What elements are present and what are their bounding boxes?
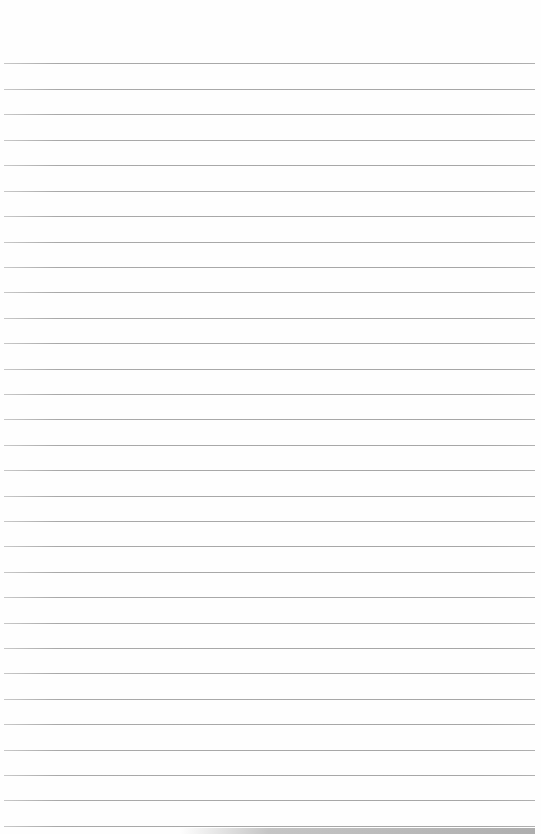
ruled-line — [4, 597, 535, 598]
ruled-line — [4, 89, 535, 90]
ruled-line — [4, 546, 535, 547]
ruled-line — [4, 470, 535, 471]
ruled-line — [4, 216, 535, 217]
page-edge-shadow — [180, 828, 535, 834]
ruled-line — [4, 140, 535, 141]
ruled-line — [4, 623, 535, 624]
ruled-line — [4, 699, 535, 700]
ruled-line — [4, 521, 535, 522]
ruled-line — [4, 242, 535, 243]
ruled-line — [4, 775, 535, 776]
ruled-line — [4, 648, 535, 649]
ruled-line — [4, 419, 535, 420]
ruled-line — [4, 826, 535, 827]
ruled-line — [4, 496, 535, 497]
ruled-line — [4, 343, 535, 344]
ruled-line — [4, 191, 535, 192]
ruled-line — [4, 394, 535, 395]
lined-paper-sheet — [0, 0, 541, 834]
ruled-line — [4, 267, 535, 268]
ruled-line — [4, 318, 535, 319]
ruled-line — [4, 572, 535, 573]
ruled-line — [4, 292, 535, 293]
ruled-line — [4, 800, 535, 801]
ruled-line — [4, 63, 535, 64]
ruled-line — [4, 724, 535, 725]
ruled-line — [4, 114, 535, 115]
ruled-line — [4, 673, 535, 674]
ruled-line — [4, 750, 535, 751]
ruled-line — [4, 445, 535, 446]
ruled-line — [4, 165, 535, 166]
ruled-line — [4, 369, 535, 370]
